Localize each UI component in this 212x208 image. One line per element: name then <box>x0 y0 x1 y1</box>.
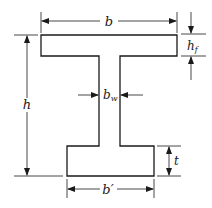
label-bw: bw <box>103 88 118 103</box>
dimension-bw: bw <box>78 88 143 103</box>
dimension-b-prime: b′ <box>67 179 154 198</box>
label-b: b <box>105 14 113 29</box>
dimension-t: t <box>157 146 181 176</box>
dimension-b: b <box>41 12 177 33</box>
i-beam-section <box>41 35 177 176</box>
label-b-prime: b′ <box>102 182 113 197</box>
i-beam-diagram: b hf bw h t b′ <box>0 0 212 208</box>
label-h: h <box>23 97 31 112</box>
label-hf: hf <box>187 39 200 54</box>
label-t: t <box>174 154 179 168</box>
dimension-hf: hf <box>181 12 206 80</box>
